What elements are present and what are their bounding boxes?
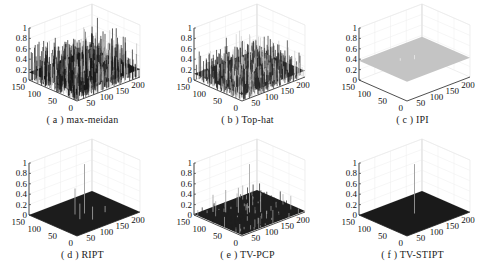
svg-text:0: 0	[69, 103, 74, 113]
svg-text:0.2: 0.2	[181, 200, 192, 210]
svg-text:50: 50	[251, 233, 261, 243]
svg-text:50: 50	[378, 96, 388, 106]
svg-text:200: 200	[131, 80, 145, 90]
svg-text:200: 200	[296, 80, 310, 90]
svg-text:100: 100	[100, 92, 114, 102]
caption-f: ( f ) TV-STIPT	[330, 249, 495, 260]
svg-text:0.8: 0.8	[16, 33, 28, 43]
svg-text:0.8: 0.8	[181, 33, 193, 43]
svg-text:150: 150	[116, 221, 130, 231]
svg-text:50: 50	[251, 98, 261, 108]
svg-text:0.6: 0.6	[16, 179, 28, 189]
svg-text:50: 50	[86, 98, 96, 108]
svg-text:1: 1	[188, 23, 193, 33]
caption-d: ( d ) RIPT	[0, 249, 165, 260]
svg-text:0.4: 0.4	[181, 54, 193, 64]
caption-e: ( e ) TV-PCP	[165, 249, 330, 260]
svg-text:50: 50	[416, 98, 426, 108]
svg-text:50: 50	[48, 96, 58, 106]
svg-text:150: 150	[281, 221, 295, 231]
surface-plane	[359, 37, 470, 82]
svg-text:100: 100	[358, 89, 372, 99]
svg-text:150: 150	[342, 217, 356, 227]
caption-b: ( b ) Top-hat	[165, 114, 330, 125]
svg-text:0.2: 0.2	[181, 65, 192, 75]
svg-text:0.8: 0.8	[346, 168, 358, 178]
svg-text:100: 100	[193, 224, 207, 234]
svg-text:150: 150	[177, 82, 191, 92]
svg-text:0.2: 0.2	[346, 65, 357, 75]
svg-text:150: 150	[12, 82, 26, 92]
svg-text:50: 50	[378, 231, 388, 241]
svg-text:0.6: 0.6	[346, 44, 358, 54]
svg-text:0.8: 0.8	[346, 33, 358, 43]
svg-text:150: 150	[116, 86, 130, 96]
svg-text:100: 100	[100, 227, 114, 237]
svg-text:100: 100	[28, 89, 42, 99]
svg-text:100: 100	[265, 227, 279, 237]
svg-text:0.6: 0.6	[346, 179, 358, 189]
svg-text:100: 100	[430, 92, 444, 102]
svg-text:50: 50	[48, 231, 58, 241]
svg-text:150: 150	[177, 217, 191, 227]
svg-text:200: 200	[461, 215, 475, 225]
panel-ript: 00.20.40.60.8105010015050100150200 ( d )…	[0, 135, 165, 270]
svg-text:150: 150	[446, 221, 460, 231]
svg-text:100: 100	[28, 224, 42, 234]
svg-text:100: 100	[358, 224, 372, 234]
svg-text:0: 0	[234, 103, 239, 113]
svg-text:0.6: 0.6	[181, 44, 193, 54]
svg-text:0.4: 0.4	[346, 54, 358, 64]
panel-tv-pcp: 00.20.40.60.8105010015050100150200 ( e )…	[165, 135, 330, 270]
svg-text:0.4: 0.4	[181, 189, 193, 199]
svg-text:0.4: 0.4	[346, 189, 358, 199]
svg-text:150: 150	[281, 86, 295, 96]
svg-text:150: 150	[446, 86, 460, 96]
caption-a: ( a ) max-meidan	[0, 114, 165, 125]
svg-text:100: 100	[430, 227, 444, 237]
panel-tv-stipt: 00.20.40.60.8105010015050100150200 ( f )…	[330, 135, 495, 270]
svg-text:1: 1	[353, 23, 358, 33]
svg-text:1: 1	[23, 158, 28, 168]
svg-text:1: 1	[23, 23, 28, 33]
caption-c: ( c ) IPI	[330, 114, 495, 125]
panel-max-meidan: 00.20.40.60.8105010015050100150200 ( a )…	[0, 0, 165, 135]
panel-top-hat: 00.20.40.60.8105010015050100150200 ( b )…	[165, 0, 330, 135]
svg-text:1: 1	[188, 158, 193, 168]
svg-text:50: 50	[213, 96, 223, 106]
svg-text:0: 0	[399, 238, 404, 248]
svg-text:0.6: 0.6	[16, 44, 28, 54]
svg-text:200: 200	[461, 80, 475, 90]
svg-text:50: 50	[416, 233, 426, 243]
svg-text:200: 200	[131, 215, 145, 225]
svg-text:0.6: 0.6	[181, 179, 193, 189]
svg-text:0.4: 0.4	[16, 54, 28, 64]
svg-text:100: 100	[193, 89, 207, 99]
svg-text:50: 50	[86, 233, 96, 243]
svg-text:0.2: 0.2	[346, 200, 357, 210]
svg-text:0: 0	[399, 103, 404, 113]
svg-text:0: 0	[69, 238, 74, 248]
svg-text:50: 50	[213, 231, 223, 241]
svg-text:200: 200	[296, 215, 310, 225]
svg-text:0.2: 0.2	[16, 200, 27, 210]
svg-text:0.4: 0.4	[16, 189, 28, 199]
svg-text:150: 150	[12, 217, 26, 227]
svg-text:100: 100	[265, 92, 279, 102]
panel-ipi: 00.20.40.60.8105010015050100150200 ( c )…	[330, 0, 495, 135]
svg-text:0.2: 0.2	[16, 65, 27, 75]
svg-text:0: 0	[234, 238, 239, 248]
svg-text:0.8: 0.8	[181, 168, 193, 178]
svg-text:1: 1	[353, 158, 358, 168]
svg-text:150: 150	[342, 82, 356, 92]
svg-text:0.8: 0.8	[16, 168, 28, 178]
